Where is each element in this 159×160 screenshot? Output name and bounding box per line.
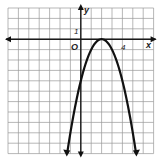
origin-label: O bbox=[71, 42, 78, 52]
y-tick-1-label: 1 bbox=[74, 27, 78, 36]
y-axis-label: y bbox=[83, 5, 90, 15]
curve-right-arrow bbox=[133, 149, 140, 156]
x-axis-label: x bbox=[145, 40, 152, 50]
curve-left-arrow bbox=[63, 149, 70, 156]
y-axis-down-arrow bbox=[78, 152, 84, 158]
y-axis-up-arrow bbox=[78, 4, 84, 10]
coordinate-plane: y x O 4 1 bbox=[0, 0, 159, 160]
x-tick-4-label: 4 bbox=[121, 43, 126, 52]
